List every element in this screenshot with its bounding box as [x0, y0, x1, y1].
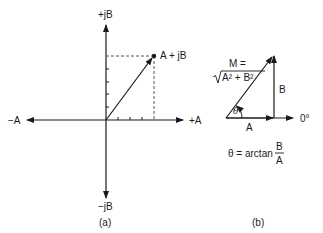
caption-b: (b): [252, 217, 264, 228]
label-zero-degrees: 0°: [300, 113, 310, 124]
phasor-vector: [106, 58, 152, 120]
angle-symbol: θ: [233, 106, 239, 116]
label-point: A + jB: [160, 50, 187, 61]
magnitude-label-line1: M =: [229, 58, 246, 69]
caption-a: (a): [99, 217, 111, 228]
phasor-diagram: +jB −jB +A −A A + jB (a) θ M = A² + B² B…: [0, 0, 323, 233]
formula-denominator: A: [276, 155, 283, 166]
label-side-b: B: [279, 84, 286, 95]
phasor-point: [152, 54, 156, 58]
magnitude-label-line2: A² + B²: [222, 72, 254, 83]
label-pos-imag: +jB: [98, 9, 113, 20]
label-neg-imag: −jB: [98, 201, 113, 212]
label-pos-real: +A: [189, 115, 202, 126]
label-side-a: A: [246, 122, 253, 133]
label-neg-real: −A: [8, 115, 21, 126]
formula-lhs: θ = arctan: [228, 148, 273, 159]
figure-b: θ M = A² + B² B A 0° θ = arctan B A (b): [213, 56, 310, 228]
formula-numerator: B: [276, 141, 283, 152]
figure-a: +jB −jB +A −A A + jB (a): [8, 9, 202, 228]
